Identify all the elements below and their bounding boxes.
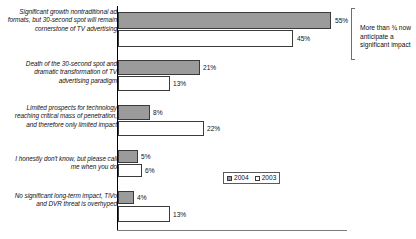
bar-value-2003-category-3: 22% xyxy=(207,125,220,133)
category-label-2: Death of the 30-second spot and dramatic… xyxy=(5,60,117,85)
bar-value-2004-category-1: 55% xyxy=(335,17,348,25)
bar-chart: Significant growth nontraditional ad for… xyxy=(0,0,416,239)
category-label-1: Significant growth nontraditional ad for… xyxy=(5,8,117,33)
bar-2004-category-2 xyxy=(118,60,200,75)
bar-value-2003-category-4: 6% xyxy=(145,167,155,175)
chart-baseline xyxy=(117,230,347,231)
bar-2003-category-5 xyxy=(118,206,170,222)
legend-label-2004: 2004 xyxy=(234,174,249,182)
callout-note: More than ¾ now anticipate a significant… xyxy=(360,24,414,50)
legend-entry-2003: 2003 xyxy=(255,174,277,182)
bar-2004-category-3 xyxy=(118,105,150,120)
bar-2003-category-4 xyxy=(118,164,142,177)
bar-value-2004-category-4: 5% xyxy=(141,153,151,161)
callout-bracket xyxy=(351,8,355,60)
legend-swatch-2004-icon xyxy=(227,176,232,181)
legend-entry-2004: 2004 xyxy=(227,174,249,182)
bar-value-2003-category-1: 45% xyxy=(297,35,310,43)
bar-2003-category-2 xyxy=(118,76,170,91)
category-label-4: I honestly don't know, but please call m… xyxy=(5,155,117,172)
category-label-5: No significant long-term impact, TiVo an… xyxy=(5,192,117,209)
bar-2004-category-5 xyxy=(118,191,134,204)
bar-value-2003-category-5: 13% xyxy=(173,211,186,219)
bar-2003-category-3 xyxy=(118,121,204,136)
bar-value-2004-category-3: 8% xyxy=(153,109,163,117)
bar-2003-category-1 xyxy=(118,30,293,47)
category-label-3: Limited prospects for technology reachin… xyxy=(5,104,117,129)
bar-value-2003-category-2: 13% xyxy=(173,80,186,88)
bar-2004-category-1 xyxy=(118,12,331,29)
legend-swatch-2003-icon xyxy=(255,176,260,181)
bar-2004-category-4 xyxy=(118,150,138,163)
legend-label-2003: 2003 xyxy=(262,174,277,182)
bar-value-2004-category-2: 21% xyxy=(203,64,216,72)
bar-value-2004-category-5: 4% xyxy=(137,194,147,202)
chart-legend: 2004 2003 xyxy=(223,172,280,184)
